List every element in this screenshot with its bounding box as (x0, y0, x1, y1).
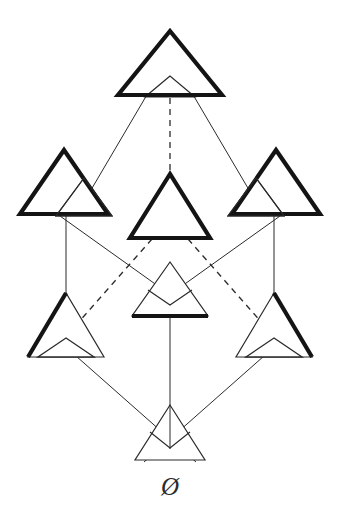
hasse-diagram-figure: Ø (0, 0, 338, 523)
lattice-canvas: Ø (0, 0, 338, 523)
empty-set-symbol: Ø (160, 473, 180, 500)
